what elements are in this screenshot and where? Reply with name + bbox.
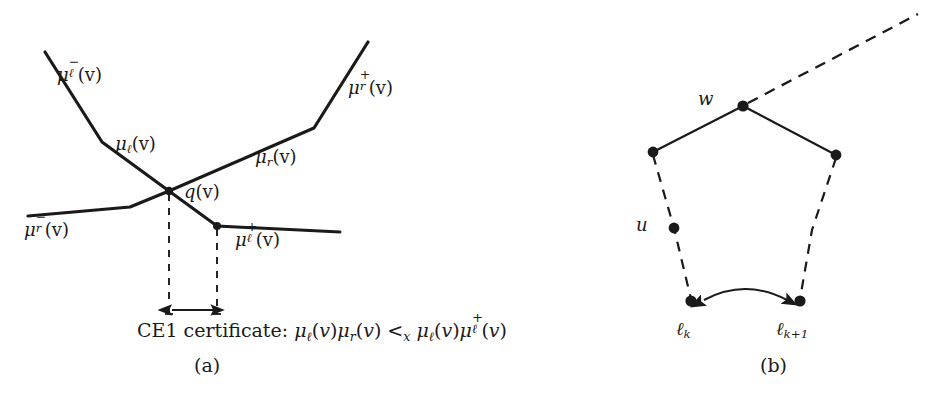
label-w: w [698, 90, 713, 108]
cert-scripts4: +ℓ [472, 318, 482, 337]
cert-v4: v [489, 319, 500, 341]
figure-container: μ−ℓ(v) μℓ(v) μ+r(v) μr(v) q(v) μ−r(v) μ+… [0, 0, 949, 405]
node-l-k1 [794, 295, 805, 306]
label-mu-r-minus-scripts: −r [36, 218, 45, 236]
label-mu-r-minus: μ−r(v) [24, 218, 69, 239]
edge-w-right [743, 106, 836, 155]
label-mu-r-minus-arg: (v) [45, 219, 69, 240]
label-l-k-sub: k [684, 327, 691, 341]
label-mu-r-plus-mu: μ [348, 77, 360, 98]
cert-mu4: μ [460, 319, 472, 341]
cert-arg3b: ) [452, 319, 459, 341]
edge-left-w [653, 106, 743, 152]
point-q [165, 187, 173, 195]
certificate-text: CE1 certificate: μℓ(v)μr(v) <x μℓ(v)μ+ℓ(… [137, 318, 507, 343]
label-mu-l-minus-mu: μ [57, 64, 69, 85]
cert-v1: v [319, 319, 330, 341]
figure-vector-layer [0, 0, 949, 405]
label-mu-l-plus-arg: (v) [256, 229, 280, 250]
label-mu-r-minus-mu: μ [24, 219, 36, 240]
label-mu-r-plus-scripts: +r [360, 76, 369, 94]
certificate-expression: μℓ(v)μr(v) <x μℓ(v)μ+ℓ(v) [294, 319, 507, 341]
cert-lt: < [387, 319, 403, 341]
label-mu-l-plus: μ+ℓ(v) [235, 228, 280, 249]
label-mu-l-plus-mu: μ [235, 229, 247, 250]
label-mu-l-plus-scripts: +ℓ [247, 228, 256, 246]
cert-mu1: μ [294, 319, 306, 341]
label-l-k1: ℓk+1 [776, 320, 808, 341]
node-w [737, 100, 748, 111]
ray-w-dashed [748, 14, 918, 103]
label-mu-l-minus-arg: (v) [78, 64, 102, 85]
label-mu-l-mu: μ [115, 133, 127, 154]
label-l-k-base: ℓ [676, 318, 684, 339]
label-l-k1-sub: k+1 [784, 327, 809, 341]
label-mu-r-mu: μ [255, 146, 267, 167]
label-mu-r: μr(v) [255, 148, 297, 169]
label-q-base: q [184, 181, 196, 202]
cert-mu2: μ [337, 319, 349, 341]
node-upper-left [648, 147, 659, 158]
panel-b-caption: (b) [760, 356, 787, 375]
label-u: u [636, 216, 648, 234]
point-lower [213, 222, 221, 230]
node-upper-right [831, 150, 842, 161]
cert-v2: v [363, 319, 374, 341]
certificate-prefix: CE1 certificate: [137, 319, 288, 341]
node-l-k [685, 295, 696, 306]
panel-a-caption: (a) [194, 356, 220, 375]
cert-v3: v [441, 319, 452, 341]
label-l-k: ℓk [676, 320, 691, 341]
label-mu-l: μℓ(v) [115, 135, 156, 156]
label-mu-l-minus: μ−ℓ(v) [57, 63, 102, 84]
swap-double-arrow [704, 289, 787, 300]
label-q: q(v) [184, 183, 220, 201]
label-mu-r-plus: μ+r(v) [348, 76, 393, 97]
label-l-k1-base: ℓ [776, 318, 784, 339]
label-mu-r-arg: (v) [272, 146, 296, 167]
cert-mu3: μ [416, 319, 428, 341]
node-u [669, 223, 680, 234]
label-mu-r-plus-arg: (v) [369, 77, 393, 98]
edge-right-chain-dashed [800, 158, 836, 299]
cert-arg4b: ) [500, 319, 507, 341]
panel-b-graphics [648, 14, 918, 307]
label-mu-l-arg: (v) [132, 133, 156, 154]
label-q-arg: (v) [196, 181, 220, 202]
label-mu-l-minus-scripts: −ℓ [69, 63, 78, 81]
